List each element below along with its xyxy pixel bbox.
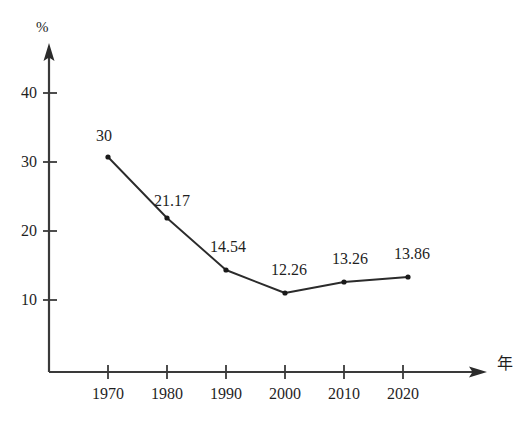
data-point-1970 [105,154,110,159]
data-point-1980 [164,215,169,220]
x-tick-label-2010: 2010 [317,386,371,402]
data-label-1990: 14.54 [196,239,260,255]
x-tick-label-1990: 1990 [199,386,253,402]
x-tick-label-1980: 1980 [140,386,194,402]
data-point-2000 [282,290,287,295]
chart-canvas [0,0,523,425]
data-label-2010: 13.26 [318,251,382,267]
line-chart: % 年 40 30 20 10 1970 1980 1990 2000 2010… [0,0,523,425]
y-tick-label-40: 40 [3,85,37,101]
data-point-1990 [223,267,228,272]
data-label-2000: 12.26 [257,262,321,278]
data-label-2020: 13.86 [380,246,444,262]
x-tick-label-2000: 2000 [258,386,312,402]
x-axis-label: 年 [497,356,513,372]
x-tick-label-2020: 2020 [376,386,430,402]
data-point-2010 [341,279,346,284]
y-tick-label-10: 10 [3,292,37,308]
x-axis [49,367,487,378]
data-label-1980: 21.17 [140,193,204,209]
data-point-2020 [405,274,410,279]
data-label-1970: 30 [79,128,129,144]
y-tick-label-20: 20 [3,223,37,239]
y-axis-unit-label: % [36,20,49,35]
y-tick-label-30: 30 [3,154,37,170]
x-tick-label-1970: 1970 [81,386,135,402]
